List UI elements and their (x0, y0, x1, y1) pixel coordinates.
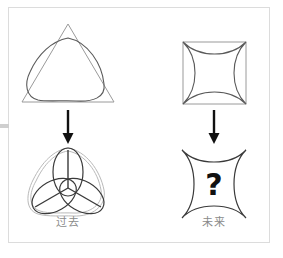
inscribed-rounded-triangle (26, 38, 103, 101)
shape-rounded-triangle-with-trefoil (2, 144, 133, 222)
shape-astroid-with-question-mark: ? (148, 144, 279, 222)
trefoil-spokes (35, 150, 101, 207)
shape-triangle-with-inscribed-rounded-triangle (2, 16, 133, 112)
spoke-lower-left (35, 188, 68, 207)
spoke-lower-right (68, 188, 101, 207)
puzzle-canvas: 过去 ? 未来 (0, 0, 283, 258)
column-past: 过去 (2, 0, 133, 258)
triangle-outline (22, 24, 114, 102)
column-future: ? 未来 (148, 0, 279, 258)
inscribed-astroid (183, 42, 246, 104)
caption-future: 未来 (148, 216, 279, 230)
caption-past: 过去 (2, 216, 133, 230)
question-mark-label: ? (205, 167, 222, 202)
square-outline (183, 42, 246, 104)
arrow-head (62, 133, 73, 144)
arrow-past (2, 108, 133, 146)
shape-square-with-inscribed-astroid (148, 16, 279, 112)
arrow-future (148, 108, 279, 146)
arrow-head (208, 133, 219, 144)
